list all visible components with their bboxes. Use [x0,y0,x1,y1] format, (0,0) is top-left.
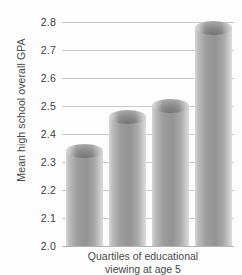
gpa-bar-chart: Mean high school overall GPA 2.8 2.7 2.6… [0,0,242,275]
bar-quartile-4 [195,28,232,246]
y-tick-2-4: 2.4 [41,128,56,140]
x-axis-title-line2: viewing at age 5 [50,263,236,275]
y-tick-2-7: 2.7 [41,44,56,56]
plot-area [62,22,234,246]
x-axis-title-line1: Quartiles of educational [50,250,236,263]
y-tick-2-6: 2.6 [41,72,56,84]
bar-quartile-1 [66,151,103,246]
x-axis-title: Quartiles of educational viewing at age … [50,250,236,275]
y-tick-2-3: 2.3 [41,156,56,168]
bar-quartile-3 [152,106,189,246]
bar-cap-highlight-icon [109,110,146,124]
y-axis-tick-labels: 2.8 2.7 2.6 2.5 2.4 2.3 2.2 2.1 2.0 [0,0,62,275]
bar-cap-highlight-icon [152,99,189,113]
bar-cap-highlight-icon [195,21,232,35]
y-tick-2-5: 2.5 [41,100,56,112]
gridline-2-0-baseline [62,246,234,247]
y-tick-2-2: 2.2 [41,184,56,196]
y-tick-2-1: 2.1 [41,212,56,224]
bar-quartile-2 [109,117,146,246]
bar-cap-highlight-icon [66,144,103,158]
bar-series [62,22,234,246]
y-tick-2-8: 2.8 [41,16,56,28]
